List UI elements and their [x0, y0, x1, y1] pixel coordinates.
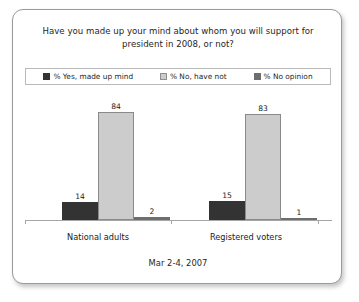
- bar-wrap-national-yes: 14: [62, 92, 98, 220]
- bar-national-yes[interactable]: [62, 202, 98, 220]
- plot-area: 14 84 2 15 83 1: [25, 92, 331, 220]
- legend-swatch-yes: [43, 73, 50, 80]
- bar-value-registered-no-opinion: 1: [297, 209, 302, 217]
- chart-legend: % Yes, made up mind % No, have not % No …: [25, 68, 331, 85]
- bar-group-registered-voters: 15 83 1: [209, 92, 317, 220]
- x-axis-line: [25, 220, 332, 221]
- bar-national-no[interactable]: [98, 112, 134, 220]
- bar-wrap-registered-no-opinion: 1: [281, 92, 317, 220]
- bar-wrap-national-no: 84: [98, 92, 134, 220]
- axis-tick-right: [318, 220, 319, 224]
- bar-value-registered-yes: 15: [222, 192, 232, 200]
- legend-swatch-no: [160, 73, 167, 80]
- bar-value-national-yes: 14: [75, 193, 85, 201]
- legend-item-yes: % Yes, made up mind: [43, 72, 133, 81]
- category-label-registered-voters: Registered voters: [171, 232, 321, 242]
- bar-value-national-no-opinion: 2: [150, 208, 155, 216]
- bar-wrap-national-no-opinion: 2: [134, 92, 170, 220]
- chart-card: Have you made up your mind about whom yo…: [12, 9, 342, 284]
- bar-registered-yes[interactable]: [209, 201, 245, 220]
- category-label-national-adults: National adults: [23, 232, 173, 242]
- legend-item-no-opinion: % No opinion: [254, 72, 313, 81]
- bar-registered-no[interactable]: [245, 114, 281, 220]
- bar-wrap-registered-no: 83: [245, 92, 281, 220]
- bar-value-registered-no: 83: [258, 105, 268, 113]
- survey-date: Mar 2-4, 2007: [13, 258, 343, 268]
- legend-label-no-opinion: % No opinion: [264, 72, 313, 81]
- axis-tick-left: [25, 220, 26, 224]
- legend-label-no: % No, have not: [170, 72, 227, 81]
- legend-label-yes: % Yes, made up mind: [53, 72, 133, 81]
- chart-title: Have you made up your mind about whom yo…: [31, 25, 325, 51]
- legend-swatch-no-opinion: [254, 73, 261, 80]
- bar-group-national-adults: 14 84 2: [62, 92, 170, 220]
- bar-wrap-registered-yes: 15: [209, 92, 245, 220]
- legend-item-no: % No, have not: [160, 72, 227, 81]
- bar-value-national-no: 84: [111, 103, 121, 111]
- axis-tick-mid: [171, 220, 172, 224]
